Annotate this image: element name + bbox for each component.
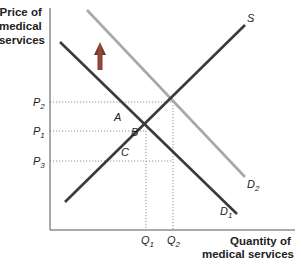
y-tick-p2: P2 <box>33 96 45 111</box>
curve-label-d2: D2 <box>247 178 260 193</box>
x-tick-q1: Q1 <box>141 234 154 249</box>
arrow-up-icon <box>94 42 106 70</box>
demand-curve-d2 <box>87 10 245 177</box>
guide-lines <box>50 102 173 230</box>
x-axis-title: Quantity of medical services <box>202 235 294 260</box>
point-label-b: B <box>131 126 138 138</box>
y-tick-p3: P3 <box>33 155 45 170</box>
point-label-c: C <box>121 146 129 158</box>
y-tick-p1: P1 <box>33 125 45 140</box>
y-axis-title: Price of medical services <box>0 6 45 46</box>
curve-label-s: S <box>247 12 255 24</box>
supply-demand-chart: Price of medical services Quantity of me… <box>0 0 303 264</box>
demand-curve-d1 <box>60 42 237 214</box>
x-tick-q2: Q2 <box>167 234 181 249</box>
point-label-a: A <box>113 111 121 123</box>
supply-curve-s <box>65 25 245 202</box>
